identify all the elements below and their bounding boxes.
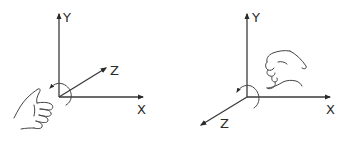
right-z-label: Z [220,116,229,131]
right-y-label: Y [251,10,260,25]
left-coordinate-diagram: Y X Z [14,10,146,129]
left-hand-icon [14,89,53,129]
left-y-label: Y [62,10,71,25]
right-coordinate-diagram: Y X Z [201,10,335,131]
left-rotation-arrow-icon [50,83,71,105]
coordinate-systems-figure: Y X Z Y X Z [0,0,343,141]
left-z-label: Z [110,63,119,78]
right-hand-icon [266,51,307,89]
left-z-axis [59,68,106,97]
left-x-label: X [137,102,146,117]
right-x-label: X [326,102,335,117]
